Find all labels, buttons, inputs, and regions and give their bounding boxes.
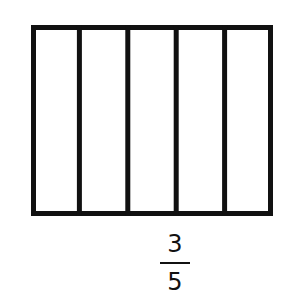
fraction-bar-line: [160, 262, 190, 264]
fraction-bar-diagram: [0, 0, 301, 302]
bar-outline: [34, 28, 271, 214]
fraction-numerator: 3: [150, 232, 200, 256]
fraction-denominator: 5: [150, 270, 200, 294]
